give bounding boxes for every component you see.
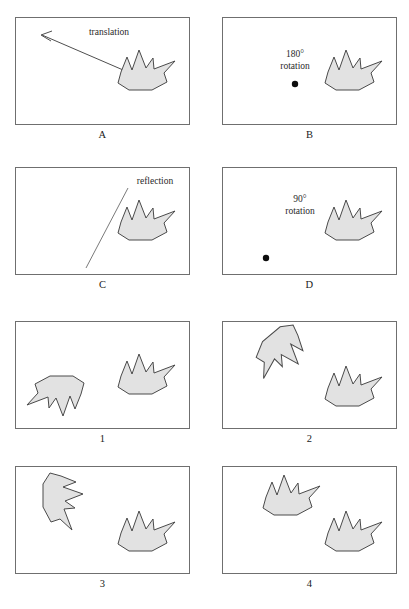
panel-D-shape — [325, 200, 382, 240]
panel-3-original-shape — [118, 511, 175, 551]
panel-B-shape — [325, 50, 382, 90]
panel-2-original-shape — [325, 366, 382, 406]
reference-panel-group: translation A 180° rotation B — [0, 0, 409, 310]
panel-4-label: 4 — [222, 578, 397, 590]
panel-A-shape — [118, 50, 175, 90]
panel-A-label: A — [15, 129, 190, 141]
panel-C-label: C — [15, 279, 190, 291]
panel-1-label: 1 — [15, 433, 190, 445]
panel-2-label: 2 — [222, 433, 397, 445]
panel-C-caption-line-1: reflection — [137, 176, 174, 186]
panel-B[interactable]: 180° rotation B — [222, 17, 397, 125]
rotation-center-dot-icon — [292, 81, 298, 87]
panel-4[interactable]: 4 — [222, 466, 397, 574]
panel-C-shape — [118, 200, 175, 240]
panel-A[interactable]: translation A — [15, 17, 190, 125]
panel-3-label: 3 — [15, 578, 190, 590]
panel-D-caption-line-2: rotation — [285, 206, 315, 216]
panel-D-label: D — [222, 279, 397, 291]
panel-3-graphic — [15, 466, 190, 574]
panel-C[interactable]: reflection C — [15, 167, 190, 275]
panel-B-caption-line-2: rotation — [280, 61, 310, 71]
panel-D-graphic: 90° rotation — [222, 167, 397, 275]
panel-B-caption-line-1: 180° — [286, 49, 304, 59]
panel-3-transformed-shape — [43, 473, 83, 530]
panel-2[interactable]: 2 — [222, 321, 397, 429]
panel-A-caption-line-1: translation — [89, 27, 129, 37]
panel-2-transformed-shape — [245, 320, 314, 387]
panel-D[interactable]: 90° rotation D — [222, 167, 397, 275]
panel-C-graphic: reflection — [15, 167, 190, 275]
panel-B-graphic: 180° rotation — [222, 17, 397, 125]
panel-1-transformed-shape — [27, 376, 84, 416]
answer-panel-group: 1 2 — [0, 310, 409, 609]
panel-A-graphic: translation — [15, 17, 190, 125]
panel-B-label: B — [222, 129, 397, 141]
panel-4-original-shape — [325, 511, 382, 551]
panel-1-original-shape — [118, 354, 175, 394]
panel-1[interactable]: 1 — [15, 321, 190, 429]
panel-4-graphic — [222, 466, 397, 574]
panel-4-transformed-shape — [263, 475, 320, 515]
panel-3[interactable]: 3 — [15, 466, 190, 574]
panel-1-graphic — [15, 321, 190, 429]
transformation-figure: translation A 180° rotation B — [0, 0, 409, 609]
rotation-center-dot-icon — [263, 255, 269, 261]
panel-D-caption-line-1: 90° — [293, 194, 307, 204]
panel-2-graphic — [222, 321, 397, 429]
